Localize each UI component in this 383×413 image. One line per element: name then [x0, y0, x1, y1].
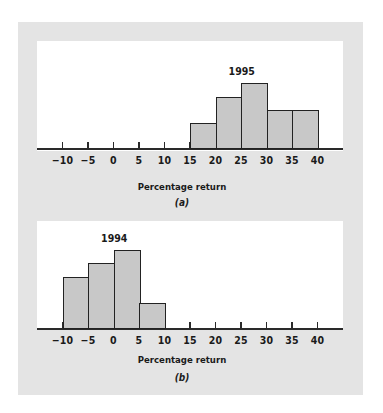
histogram-bar	[139, 303, 166, 329]
x-axis-label-b: Percentage return	[138, 354, 226, 365]
figure-panel: −10−505101520253035401995 Percentage ret…	[18, 22, 363, 395]
x-tick-label: 0	[110, 154, 117, 166]
panel-label-a: (a)	[175, 197, 189, 208]
panel-label-b: (b)	[175, 372, 190, 383]
x-tick	[138, 142, 140, 149]
x-tick-label: 25	[234, 334, 248, 346]
histogram-b: −10−505101520253035401994	[37, 221, 343, 330]
x-tick-label: 10	[158, 154, 172, 166]
x-tick	[317, 322, 319, 329]
x-tick	[266, 322, 268, 329]
x-tick-label: 5	[136, 154, 143, 166]
x-tick	[87, 142, 89, 149]
x-tick-label: 40	[311, 334, 325, 346]
x-tick-label: 5	[136, 334, 143, 346]
x-tick-label: 25	[234, 154, 248, 166]
x-tick-label: −10	[52, 334, 74, 346]
x-tick-label: 35	[285, 334, 299, 346]
x-axis-label-a: Percentage return	[138, 181, 226, 192]
x-tick	[113, 142, 115, 149]
histogram-bar	[267, 110, 294, 149]
x-tick	[164, 142, 166, 149]
histogram-bar	[63, 277, 90, 329]
x-tick-label: 40	[311, 154, 325, 166]
x-tick-label: 0	[110, 334, 117, 346]
year-label: 1995	[229, 65, 255, 77]
histogram-bar	[216, 97, 243, 149]
histogram-bar	[241, 83, 268, 149]
x-tick-label: 15	[183, 154, 197, 166]
x-tick-label: 10	[158, 334, 172, 346]
x-tick-label: 20	[209, 154, 223, 166]
x-tick	[215, 322, 217, 329]
x-tick-label: 20	[209, 334, 223, 346]
x-tick-label: −10	[52, 154, 74, 166]
x-tick	[62, 142, 64, 149]
x-tick-label: 15	[183, 334, 197, 346]
x-tick-label: 30	[260, 154, 274, 166]
x-tick	[240, 322, 242, 329]
x-tick-label: 35	[285, 154, 299, 166]
x-tick-label: −5	[81, 334, 96, 346]
x-tick-label: −5	[81, 154, 96, 166]
year-label: 1994	[101, 232, 127, 244]
histogram-a: −10−505101520253035401995	[37, 41, 343, 151]
x-tick	[189, 322, 191, 329]
histogram-bar	[114, 250, 141, 329]
x-tick	[291, 322, 293, 329]
x-tick-label: 30	[260, 334, 274, 346]
histogram-bar	[88, 263, 115, 329]
histogram-bar	[190, 123, 217, 149]
histogram-bar	[292, 110, 319, 149]
